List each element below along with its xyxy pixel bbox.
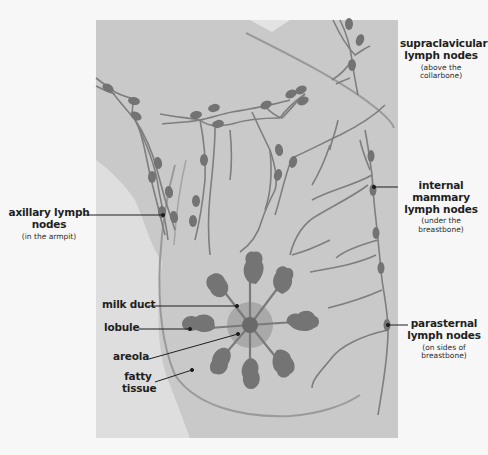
milk-duct-title: milk duct <box>102 299 162 311</box>
supraclavicular-note: (above the collarbone) <box>400 64 482 81</box>
label-internal-mammary: internal mammary lymph nodes (under the … <box>402 180 480 234</box>
axillary-note: (in the armpit) <box>8 233 90 241</box>
axillary-title: axillary lymph nodes <box>8 207 90 231</box>
areola-title: areola <box>113 351 153 363</box>
fatty-tissue-title: fatty tissue <box>122 371 154 395</box>
supraclavicular-title: supraclavicular lymph nodes <box>400 38 482 62</box>
internal-mammary-title: internal mammary lymph nodes <box>402 180 480 215</box>
label-lobule: lobule <box>104 322 144 334</box>
nipple <box>242 317 258 333</box>
label-supraclavicular: supraclavicular lymph nodes (above the c… <box>400 38 482 80</box>
label-areola: areola <box>113 351 153 363</box>
parasternal-title: parasternal lymph nodes <box>404 318 484 342</box>
lobule-title: lobule <box>104 322 144 334</box>
label-parasternal: parasternal lymph nodes (on sides of bre… <box>404 318 484 360</box>
internal-mammary-note: (under the breastbone) <box>402 217 480 234</box>
label-fatty-tissue: fatty tissue <box>122 371 154 395</box>
label-milk-duct: milk duct <box>102 299 162 311</box>
parasternal-note: (on sides of breastbone) <box>404 344 484 361</box>
label-axillary: axillary lymph nodes (in the armpit) <box>8 207 90 241</box>
